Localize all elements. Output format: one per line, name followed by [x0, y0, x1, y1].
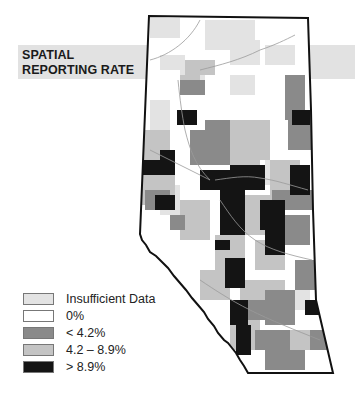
legend-item-low: < 4.2% [23, 324, 155, 341]
legend-item-insufficient: Insufficient Data [23, 290, 155, 307]
legend-swatch-zero [23, 310, 54, 322]
legend-swatch-mid [23, 344, 54, 356]
legend-label: 4.2 – 8.9% [66, 343, 126, 357]
title-line-2: REPORTING RATE [22, 63, 134, 78]
legend-item-mid: 4.2 – 8.9% [23, 341, 155, 358]
map-title: SPATIAL REPORTING RATE [22, 48, 134, 78]
legend-item-zero: 0% [23, 307, 155, 324]
legend-label: 0% [66, 309, 84, 323]
legend-swatch-insufficient [23, 293, 54, 305]
legend-swatch-high [23, 361, 54, 373]
legend-label: < 4.2% [66, 326, 105, 340]
legend-item-high: > 8.9% [23, 358, 155, 375]
legend-label: > 8.9% [66, 360, 105, 374]
legend-swatch-low [23, 327, 54, 339]
map-regions [130, 10, 340, 380]
title-line-1: SPATIAL [22, 48, 134, 63]
legend-label: Insufficient Data [66, 292, 155, 306]
legend: Insufficient Data 0% < 4.2% 4.2 – 8.9% >… [23, 290, 155, 375]
